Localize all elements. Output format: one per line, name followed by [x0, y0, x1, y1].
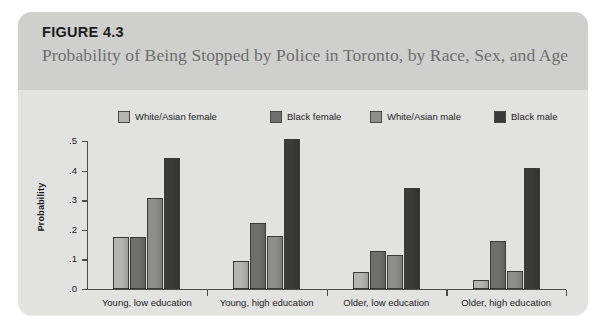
chart-plot-area: Probability .0.1.2.3.4.5Young, low educa… [18, 130, 588, 315]
legend-swatch-icon [270, 111, 282, 123]
y-axis-label: Probability [36, 172, 46, 242]
figure-card: FIGURE 4.3 Probability of Being Stopped … [18, 12, 588, 315]
y-axis-tick-label: .4 [55, 165, 77, 176]
legend-item-0[interactable]: White/Asian female [118, 110, 217, 124]
x-axis-group-tick [207, 290, 208, 296]
legend-item-2[interactable]: White/Asian male [370, 110, 461, 124]
x-axis-group-tick [566, 290, 567, 296]
x-axis-group-tick [446, 290, 447, 296]
bar [387, 255, 403, 289]
y-axis-tick [82, 200, 88, 201]
bar [490, 241, 506, 289]
x-axis-group-label: Young, low education [87, 297, 207, 308]
y-axis-tick [82, 289, 88, 290]
bar [524, 168, 540, 289]
legend-label: Black female [287, 111, 341, 123]
x-axis-group-label: Older, high education [446, 297, 566, 308]
bar [130, 237, 146, 289]
bar [507, 271, 523, 289]
legend-swatch-icon [370, 111, 382, 123]
legend-label: White/Asian female [135, 111, 217, 123]
bar [353, 272, 369, 289]
legend-item-1[interactable]: Black female [270, 110, 341, 124]
figure-number: FIGURE 4.3 [42, 24, 124, 40]
bar [233, 261, 249, 289]
bar [284, 139, 300, 289]
y-axis-tick [82, 259, 88, 260]
x-axis-group-tick [327, 290, 328, 296]
legend-swatch-icon [494, 111, 506, 123]
y-axis-tick [82, 230, 88, 231]
y-axis-tick [82, 171, 88, 172]
bar [267, 236, 283, 289]
bar [370, 251, 386, 289]
y-axis-tick-label: .0 [55, 283, 77, 294]
chart-legend: White/Asian femaleBlack femaleWhite/Asia… [18, 108, 588, 128]
y-axis-tick-label: .5 [55, 135, 77, 146]
legend-swatch-icon [118, 111, 130, 123]
legend-label: White/Asian male [387, 111, 461, 123]
y-axis-tick [82, 141, 88, 142]
x-axis-group-label: Older, low education [327, 297, 447, 308]
figure-title: Probability of Being Stopped by Police i… [42, 45, 568, 66]
bar [404, 188, 420, 289]
bar [250, 223, 266, 289]
y-axis-line [87, 141, 88, 290]
figure-header-band: FIGURE 4.3 Probability of Being Stopped … [18, 12, 588, 90]
y-axis-tick-label: .2 [55, 224, 77, 235]
bar [164, 158, 180, 289]
bar [113, 237, 129, 289]
y-axis-tick-label: .3 [55, 194, 77, 205]
x-axis-group-label: Young, high education [207, 297, 327, 308]
bar [473, 280, 489, 289]
bar [147, 198, 163, 289]
legend-label: Black male [511, 111, 557, 123]
y-axis-tick-label: .1 [55, 253, 77, 264]
legend-item-3[interactable]: Black male [494, 110, 557, 124]
